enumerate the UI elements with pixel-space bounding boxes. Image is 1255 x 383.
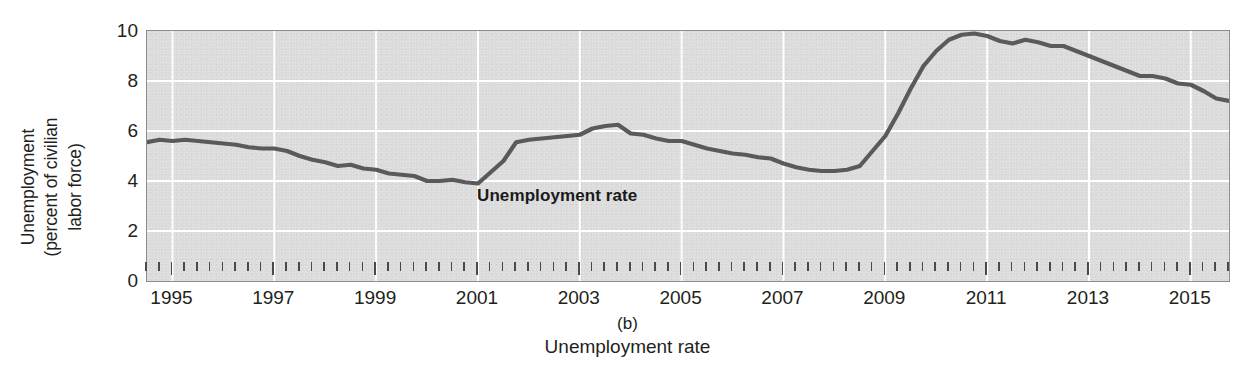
plot-area xyxy=(146,30,1230,282)
y-axis-title-line-2: (percent of civilian xyxy=(40,117,63,256)
x-tick-minor xyxy=(820,262,822,271)
x-tick-minor xyxy=(934,262,936,271)
x-tick-minor xyxy=(387,262,389,271)
x-tick-minor xyxy=(896,262,898,271)
x-tick-minor xyxy=(769,262,771,271)
x-tick-minor xyxy=(1138,262,1140,271)
x-tick-label-2001: 2001 xyxy=(432,287,522,309)
x-tick-major xyxy=(272,262,274,275)
x-tick-minor xyxy=(1151,262,1153,271)
x-tick-minor xyxy=(565,262,567,271)
x-tick-minor xyxy=(183,262,185,271)
x-tick-minor xyxy=(718,262,720,271)
x-tick-label-2003: 2003 xyxy=(534,287,624,309)
x-tick-minor xyxy=(794,262,796,271)
x-tick-minor xyxy=(285,262,287,271)
figure-caption: (b) Unemployment rate xyxy=(0,313,1255,360)
x-tick-minor xyxy=(1176,262,1178,271)
x-tick-minor xyxy=(705,262,707,271)
x-tick-minor xyxy=(807,262,809,271)
x-tick-major xyxy=(884,262,886,275)
y-tick-label-2: 2 xyxy=(108,221,138,240)
x-tick-minor xyxy=(1036,262,1038,271)
x-tick-minor xyxy=(909,262,911,271)
y-axis-title: Unemployment (percent of civilian labor … xyxy=(10,57,94,317)
x-tick-label-2013: 2013 xyxy=(1043,287,1133,309)
x-tick-minor xyxy=(1202,262,1204,271)
y-tick-label-4: 4 xyxy=(108,171,138,190)
x-tick-minor xyxy=(553,262,555,271)
x-tick-minor xyxy=(922,262,924,271)
x-tick-minor xyxy=(222,262,224,271)
x-tick-minor xyxy=(540,262,542,271)
unemployment-rate-figure: Unemployment (percent of civilian labor … xyxy=(0,0,1255,383)
x-tick-label-2015: 2015 xyxy=(1145,287,1235,309)
x-tick-minor xyxy=(514,262,516,271)
x-tick-minor xyxy=(527,262,529,271)
x-tick-minor xyxy=(731,262,733,271)
x-tick-major xyxy=(1087,262,1089,275)
x-tick-minor xyxy=(425,262,427,271)
x-tick-minor xyxy=(234,262,236,271)
x-tick-minor xyxy=(1024,262,1026,271)
x-tick-minor xyxy=(1164,262,1166,271)
x-tick-minor xyxy=(489,262,491,271)
x-tick-minor xyxy=(362,262,364,271)
x-tick-minor xyxy=(451,262,453,271)
y-axis-title-line-3: labor force) xyxy=(64,143,87,230)
x-tick-minor xyxy=(1074,262,1076,271)
x-tick-minor xyxy=(260,262,262,271)
x-tick-label-1995: 1995 xyxy=(126,287,216,309)
x-tick-label-2005: 2005 xyxy=(636,287,726,309)
x-tick-major xyxy=(578,262,580,275)
x-tick-major xyxy=(374,262,376,275)
x-tick-minor xyxy=(502,262,504,271)
x-tick-minor xyxy=(463,262,465,271)
x-tick-minor xyxy=(1100,262,1102,271)
x-tick-label-1999: 1999 xyxy=(330,287,420,309)
y-axis-title-line-1: Unemployment xyxy=(17,129,40,246)
series-unemployment-rate xyxy=(147,31,1229,281)
x-tick-minor xyxy=(960,262,962,271)
x-tick-minor xyxy=(145,262,147,271)
panel-letter: (b) xyxy=(0,313,1255,334)
x-axis-tick-labels: 1995199719992001200320052007200920112013… xyxy=(0,287,1255,313)
x-tick-minor xyxy=(667,262,669,271)
x-tick-minor xyxy=(642,262,644,271)
caption-title: Unemployment rate xyxy=(0,334,1255,360)
x-tick-label-1997: 1997 xyxy=(228,287,318,309)
x-tick-major xyxy=(171,262,173,275)
x-tick-label-2007: 2007 xyxy=(737,287,827,309)
x-tick-minor xyxy=(1062,262,1064,271)
x-tick-minor xyxy=(998,262,1000,271)
x-tick-minor xyxy=(438,262,440,271)
x-tick-minor xyxy=(591,262,593,271)
x-tick-minor xyxy=(743,262,745,271)
x-tick-minor xyxy=(413,262,415,271)
x-tick-label-2009: 2009 xyxy=(839,287,929,309)
x-tick-minor xyxy=(654,262,656,271)
x-tick-minor xyxy=(1011,262,1013,271)
x-tick-minor xyxy=(1125,262,1127,271)
x-tick-minor xyxy=(1214,262,1216,271)
x-tick-minor xyxy=(1227,262,1229,271)
x-tick-minor xyxy=(693,262,695,271)
y-tick-label-8: 8 xyxy=(108,71,138,90)
x-tick-minor xyxy=(400,262,402,271)
x-tick-major xyxy=(985,262,987,275)
x-tick-minor xyxy=(311,262,313,271)
y-tick-label-6: 6 xyxy=(108,121,138,140)
x-tick-minor xyxy=(947,262,949,271)
x-tick-major xyxy=(1189,262,1191,275)
x-tick-minor xyxy=(845,262,847,271)
x-tick-minor xyxy=(1049,262,1051,271)
x-tick-label-2011: 2011 xyxy=(941,287,1031,309)
x-tick-minor xyxy=(973,262,975,271)
y-tick-label-10: 10 xyxy=(108,21,138,40)
x-tick-minor xyxy=(323,262,325,271)
x-tick-minor xyxy=(833,262,835,271)
x-tick-minor xyxy=(871,262,873,271)
x-tick-minor xyxy=(349,262,351,271)
x-tick-minor xyxy=(158,262,160,271)
x-tick-minor xyxy=(1113,262,1115,271)
